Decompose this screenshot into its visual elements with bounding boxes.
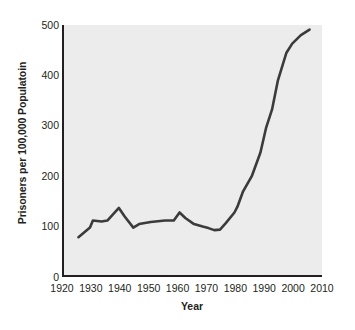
y-tick-label: 200 — [19, 171, 59, 182]
chart-figure: Prisoners per 100,000 Populatoin 0 100 2… — [0, 0, 355, 330]
x-tick-label: 2010 — [302, 282, 342, 294]
y-tick-label: 400 — [19, 70, 59, 81]
data-line-svg — [64, 25, 324, 277]
x-axis-label: Year — [62, 300, 322, 313]
y-tick-label: 300 — [19, 120, 59, 131]
plot-area — [62, 25, 322, 277]
y-axis-label: Prisoners per 100,000 Populatoin — [14, 3, 30, 283]
data-series-line — [78, 30, 309, 238]
y-tick-label: 500 — [19, 20, 59, 31]
y-tick-label: 100 — [19, 221, 59, 232]
y-tick-label: 0 — [19, 272, 59, 283]
